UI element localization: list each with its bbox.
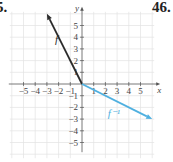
coordinate-plot: xy −5−4−3−2−11234554321−1−2−3−4−5 ff⁻¹ — [0, 0, 173, 162]
function-labels: ff⁻¹ — [55, 33, 120, 119]
svg-text:3: 3 — [74, 44, 79, 54]
svg-text:−3: −3 — [42, 86, 52, 96]
svg-text:4: 4 — [74, 32, 79, 42]
svg-text:f⁻¹: f⁻¹ — [108, 107, 120, 119]
svg-text:−2: −2 — [54, 86, 64, 96]
svg-text:x: x — [156, 85, 161, 95]
svg-text:4: 4 — [127, 86, 132, 96]
svg-text:y: y — [74, 3, 79, 13]
svg-text:5: 5 — [138, 86, 143, 96]
svg-text:−4: −4 — [30, 86, 40, 96]
svg-text:−3: −3 — [68, 114, 78, 124]
svg-text:3: 3 — [115, 86, 120, 96]
svg-text:5: 5 — [74, 21, 79, 31]
svg-text:−5: −5 — [68, 138, 78, 148]
svg-text:−1: −1 — [68, 91, 78, 101]
svg-text:−2: −2 — [68, 102, 78, 112]
svg-text:−4: −4 — [68, 126, 78, 136]
svg-text:−5: −5 — [19, 86, 29, 96]
function-lines — [47, 14, 152, 119]
svg-text:2: 2 — [74, 56, 79, 66]
